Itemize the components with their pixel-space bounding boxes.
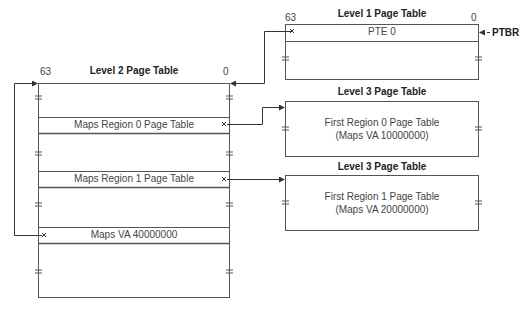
- level2-bit-low: 0: [223, 66, 229, 77]
- level3-region1-text: First Region 1 Page Table (Maps VA 20000…: [285, 190, 479, 216]
- level1-title: Level 1 Page Table: [338, 8, 427, 19]
- level2-row-region0: Maps Region 0 Page Table: [38, 119, 230, 130]
- ptbr-label: PTBR: [492, 27, 519, 38]
- level3-region0-line2: (Maps VA 10000000): [285, 129, 479, 142]
- level2-title: Level 2 Page Table: [90, 65, 179, 76]
- level2-row-region1: Maps Region 1 Page Table: [38, 173, 230, 184]
- level1-bit-low: 0: [471, 12, 477, 23]
- level3-region1-line2: (Maps VA 20000000): [285, 203, 479, 216]
- level3-region1-line1: First Region 1 Page Table: [285, 190, 479, 203]
- diagram-lines: [0, 0, 531, 310]
- level2-row-va40000000: Maps VA 40000000: [38, 229, 230, 240]
- level3-region0-text: First Region 0 Page Table (Maps VA 10000…: [285, 116, 479, 142]
- level3-title-region1: Level 3 Page Table: [338, 161, 427, 172]
- level3-title-region0: Level 3 Page Table: [338, 86, 427, 97]
- pte0-entry: PTE 0: [285, 26, 479, 37]
- level3-region0-line1: First Region 0 Page Table: [285, 116, 479, 129]
- level2-bit-high: 63: [40, 66, 51, 77]
- level1-bit-high: 63: [285, 12, 296, 23]
- level2-box: [39, 84, 230, 298]
